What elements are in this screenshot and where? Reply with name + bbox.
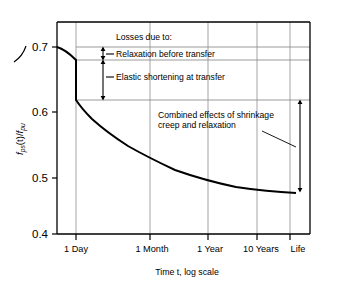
ytick-label-04: 0.4 bbox=[32, 228, 49, 240]
combined-effects-leader-line bbox=[262, 131, 296, 147]
combined-arrowhead-down bbox=[298, 188, 303, 193]
ytick-label-05: 0.5 bbox=[32, 172, 48, 184]
xtick-label-1-day: 1 Day bbox=[64, 244, 88, 254]
dimension-arrow-combined-effects bbox=[298, 100, 303, 193]
annotation-losses-heading: Losses due to: bbox=[116, 32, 172, 42]
y-axis-title: fps(t)/fpu bbox=[14, 123, 27, 155]
prestress-loss-chart: 0.7 0.6 0.5 0.4 fps(t)/fpu Losses due to… bbox=[0, 0, 338, 292]
leader-hook-icon bbox=[14, 46, 26, 62]
svg-text:fps(t)/fpu: fps(t)/fpu bbox=[14, 123, 27, 155]
dimension-arrow-elastic-shortening bbox=[101, 60, 114, 101]
annotation-relaxation-label: Relaxation before transfer bbox=[116, 49, 215, 59]
xtick-label-1-month: 1 Month bbox=[135, 244, 168, 254]
ytick-label-07: 0.7 bbox=[32, 41, 48, 53]
chart-figure: 0.7 0.6 0.5 0.4 fps(t)/fpu Losses due to… bbox=[0, 0, 338, 292]
xtick-label-life: Life bbox=[291, 244, 306, 254]
annotation-combined-effects-line2: creep and relaxation bbox=[158, 120, 236, 130]
x-axis-ticks bbox=[76, 234, 290, 240]
y-title-mid: (t)/ bbox=[14, 133, 25, 145]
y-axis-ticks bbox=[52, 47, 57, 234]
annotation-combined-effects-line1: Combined effects of shrinkage bbox=[158, 110, 274, 120]
ytick-label-06: 0.6 bbox=[32, 106, 48, 118]
x-axis-title: Time t, log scale bbox=[155, 267, 219, 277]
dimension-arrow-relaxation bbox=[101, 47, 114, 61]
y-title-sub2: pu bbox=[19, 123, 27, 132]
xtick-label-1-year: 1 Year bbox=[197, 244, 223, 254]
xtick-label-10-years: 10 Years bbox=[243, 244, 279, 254]
annotation-elastic-shortening-label: Elastic shortening at transfer bbox=[116, 72, 225, 82]
